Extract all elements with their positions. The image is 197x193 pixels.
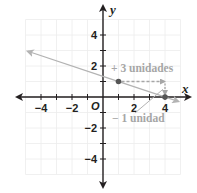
data-point bbox=[162, 94, 168, 100]
y-tick-label: −4 bbox=[84, 153, 97, 165]
annotation-minus-1: − 1 unidad bbox=[112, 112, 165, 124]
y-tick-label: −2 bbox=[84, 122, 97, 134]
x-axis-label: x bbox=[181, 81, 189, 96]
y-tick-label: 2 bbox=[91, 60, 97, 72]
x-tick-label: −2 bbox=[66, 102, 79, 114]
y-tick-label: 4 bbox=[91, 29, 98, 41]
coordinate-plane: −4−22442−2−4 y x O + 3 unidades − 1 unid… bbox=[0, 0, 197, 193]
annotation-plus-3: + 3 unidades bbox=[111, 62, 174, 74]
annotation-leader-line bbox=[135, 89, 163, 113]
data-point bbox=[116, 79, 122, 85]
origin-label: O bbox=[91, 100, 100, 112]
x-tick-label: −4 bbox=[35, 102, 48, 114]
y-axis-label: y bbox=[108, 2, 116, 17]
